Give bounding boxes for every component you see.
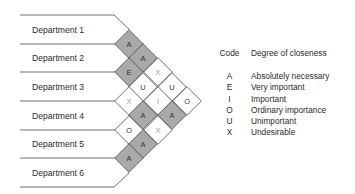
legend-header-desc: Degree of closeness [248,48,327,59]
department-label: Department 5 [32,139,84,149]
legend-code: O [211,105,248,116]
legend-desc: Undesirable [248,127,295,138]
svg-text:A: A [141,54,146,63]
legend-code: I [211,94,248,105]
svg-text:A: A [141,140,146,149]
svg-text:I: I [157,97,159,106]
svg-text:U: U [169,83,174,92]
legend-item: A Absolutely necessary [211,71,329,82]
legend-code: E [211,82,248,93]
svg-text:E: E [127,68,132,77]
legend-desc: Important [248,94,286,105]
legend-code: A [211,71,248,82]
department-label: Department 4 [32,111,84,121]
legend-item: E Very important [211,82,329,93]
svg-text:A: A [127,40,132,49]
legend-item: I Important [211,94,329,105]
legend-item: U Unimportant [211,116,329,127]
department-label: Department 3 [32,82,84,92]
svg-text:A: A [141,111,146,120]
svg-text:X: X [156,68,161,77]
legend-item: O Ordinary importance [211,105,329,116]
legend-desc: Unimportant [248,116,296,127]
department-rows [20,15,129,187]
legend-header-code: Code [211,48,248,59]
svg-text:U: U [140,83,145,92]
legend-desc: Absolutely necessary [248,71,329,82]
legend: Code Degree of closeness A Absolutely ne… [211,48,329,138]
department-label: Department 2 [32,53,84,63]
legend-code: U [211,116,248,127]
svg-text:A: A [127,154,132,163]
svg-text:A: A [170,111,175,120]
relationship-cells: AAEXUUXIOAAOXAA [115,30,202,173]
svg-text:X: X [156,126,161,135]
svg-text:O: O [184,97,190,106]
legend-item: X Undesirable [211,127,329,138]
legend-desc: Ordinary importance [248,105,326,116]
legend-desc: Very important [248,82,305,93]
department-label: Department 6 [32,168,84,178]
legend-code: X [211,127,248,138]
svg-text:X: X [127,97,132,106]
svg-text:O: O [126,126,132,135]
department-label: Department 1 [32,25,84,35]
legend-header: Code Degree of closeness [211,48,329,59]
